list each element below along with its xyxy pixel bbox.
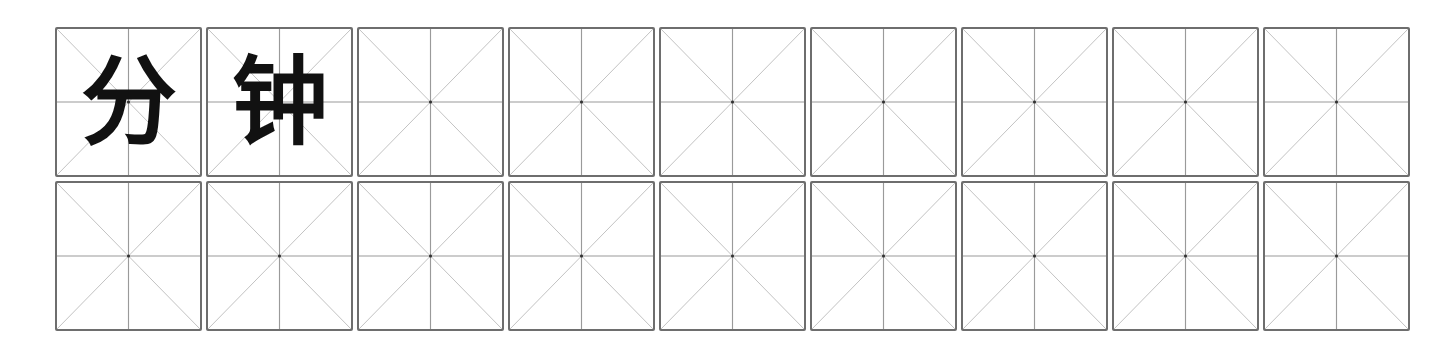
grid-row: 分钟 (55, 27, 1421, 177)
practice-character (57, 183, 200, 329)
practice-character (510, 29, 653, 175)
practice-cell[interactable] (659, 181, 806, 331)
practice-cell[interactable] (508, 27, 655, 177)
practice-character (812, 183, 955, 329)
grid-row (55, 181, 1421, 331)
practice-character (1114, 29, 1257, 175)
practice-cell[interactable] (1263, 27, 1410, 177)
practice-cell[interactable] (961, 181, 1108, 331)
practice-cell[interactable] (659, 27, 806, 177)
practice-character (1114, 183, 1257, 329)
practice-character (359, 183, 502, 329)
practice-cell[interactable]: 钟 (206, 27, 353, 177)
practice-cell[interactable]: 分 (55, 27, 202, 177)
practice-cell[interactable] (1112, 27, 1259, 177)
practice-cell[interactable] (810, 181, 957, 331)
practice-cell[interactable] (1112, 181, 1259, 331)
practice-cell[interactable] (1263, 181, 1410, 331)
practice-character: 分 (57, 29, 200, 175)
practice-character (963, 183, 1106, 329)
practice-character (359, 29, 502, 175)
practice-cell[interactable] (55, 181, 202, 331)
practice-character (1265, 29, 1408, 175)
practice-character (208, 183, 351, 329)
practice-character (510, 183, 653, 329)
practice-cell[interactable] (810, 27, 957, 177)
practice-cell[interactable] (508, 181, 655, 331)
practice-character: 钟 (208, 29, 351, 175)
practice-character (1265, 183, 1408, 329)
practice-cell[interactable] (357, 27, 504, 177)
practice-cell[interactable] (357, 181, 504, 331)
practice-character (661, 29, 804, 175)
practice-character (812, 29, 955, 175)
practice-grid: 分钟 (55, 27, 1421, 335)
practice-character (963, 29, 1106, 175)
practice-character (661, 183, 804, 329)
practice-cell[interactable] (206, 181, 353, 331)
practice-cell[interactable] (961, 27, 1108, 177)
